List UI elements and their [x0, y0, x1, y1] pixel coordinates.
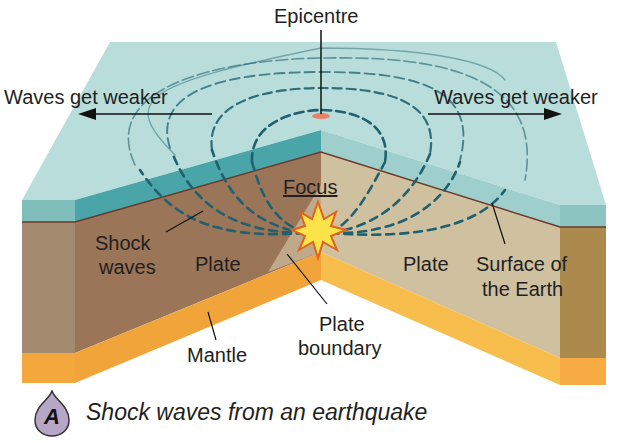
label-epicentre: Epicentre: [274, 5, 359, 27]
label-plate-boundary-line1: Plate: [319, 313, 365, 335]
earthquake-block-diagram: [0, 0, 634, 443]
label-plate-left: Plate: [195, 253, 241, 275]
label-focus: Focus: [283, 176, 337, 198]
label-waves-get-weaker-right: Waves get weaker: [434, 86, 598, 108]
label-surface-line2: the Earth: [482, 278, 563, 300]
label-plate-right: Plate: [403, 253, 449, 275]
right-side-plate: [560, 227, 606, 358]
label-plate-boundary-line2: boundary: [298, 337, 381, 359]
label-shock-waves-line1: Shock: [95, 232, 151, 254]
left-side-plate: [22, 222, 75, 353]
left-side-surface-band: [22, 200, 75, 222]
figure-badge-letter: A: [33, 404, 71, 430]
figure-caption: Shock waves from an earthquake: [86, 399, 427, 426]
label-shock-waves-line2: waves: [99, 256, 156, 278]
left-side-mantle: [22, 353, 75, 383]
label-waves-get-weaker-left: Waves get weaker: [4, 86, 168, 108]
label-mantle: Mantle: [187, 344, 247, 366]
label-surface-line1: Surface of: [476, 253, 567, 275]
right-side-surface-band: [560, 205, 606, 227]
right-side-mantle: [560, 358, 606, 385]
